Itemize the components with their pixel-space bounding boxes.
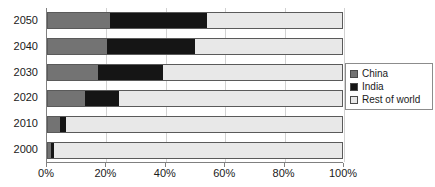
x-axis-label-100: 100%: [329, 167, 357, 179]
x-axis-label-40: 40%: [154, 167, 176, 179]
bar-segment-india: [85, 91, 119, 106]
bar-segment-china: [48, 91, 85, 106]
legend-item[interactable]: China: [350, 67, 428, 80]
x-axis-label-60: 60%: [213, 167, 235, 179]
plot-area: [46, 8, 343, 163]
bar-segment-rest-of-world: [54, 143, 342, 158]
bars-layer: [47, 8, 343, 162]
bar-segment-china: [48, 39, 107, 54]
bar-segment-china: [48, 13, 110, 28]
bar-segment-rest-of-world: [66, 117, 342, 132]
legend-item[interactable]: India: [350, 80, 428, 93]
x-axis-tick-labels: 0%20%40%60%80%100%: [46, 167, 343, 183]
bar-segment-rest-of-world: [119, 91, 342, 106]
legend-swatch-icon: [350, 70, 358, 78]
legend-label: China: [362, 68, 388, 79]
bar-segment-china: [48, 117, 60, 132]
y-axis-label-2030: 2030: [14, 67, 38, 78]
bar-segment-rest-of-world: [195, 39, 342, 54]
legend-swatch-icon: [350, 96, 358, 104]
bar-row: [47, 142, 343, 159]
legend-label: Rest of world: [362, 94, 420, 105]
bar-segment-rest-of-world: [207, 13, 342, 28]
bar-segment-india: [110, 13, 207, 28]
bar-row: [47, 90, 343, 107]
x-axis-label-0: 0%: [38, 167, 54, 179]
legend-item[interactable]: Rest of world: [350, 93, 428, 106]
y-axis-label-2000: 2000: [14, 144, 38, 155]
y-axis-label-2040: 2040: [14, 41, 38, 52]
x-axis-label-80: 80%: [273, 167, 295, 179]
bar-row: [47, 38, 343, 55]
bar-row: [47, 64, 343, 81]
bar-segment-rest-of-world: [163, 65, 342, 80]
bar-segment-india: [107, 39, 195, 54]
chart-legend: ChinaIndiaRest of world: [345, 63, 433, 110]
bar-row: [47, 116, 343, 133]
bar-row: [47, 12, 343, 29]
y-axis-label-2050: 2050: [14, 15, 38, 26]
bar-segment-india: [98, 65, 163, 80]
legend-swatch-icon: [350, 83, 358, 91]
y-axis-label-2020: 2020: [14, 92, 38, 103]
stacked-bar-chart: 200020102020203020402050 0%20%40%60%80%1…: [0, 0, 435, 187]
y-axis-label-2010: 2010: [14, 118, 38, 129]
y-axis-category-labels: 200020102020203020402050: [0, 8, 42, 163]
legend-label: India: [362, 81, 384, 92]
bar-segment-china: [48, 65, 98, 80]
x-axis-label-20: 20%: [94, 167, 116, 179]
